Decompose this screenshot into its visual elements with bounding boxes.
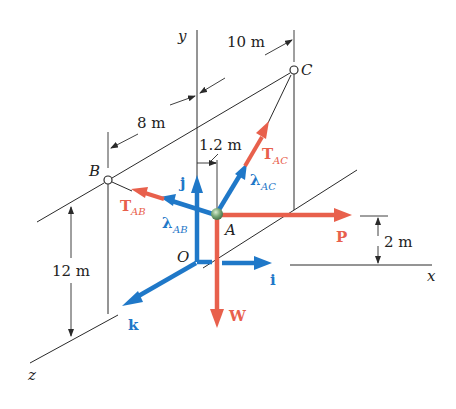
lambda-ac-label: λ AC [250,171,276,192]
lambda-ac-subscript: AC [260,181,276,192]
t-ab-subscript: AB [130,206,146,217]
p-arrow-icon [334,208,352,222]
cable-ac [268,75,291,123]
dimension-lines [71,30,388,336]
point-b-label: B [88,162,100,180]
dim-1-2m-label: 1.2 m [199,136,242,154]
t-ac-label: T AC [262,145,288,166]
z-axis-label: z [27,366,36,384]
dim-2m-label: 2 m [384,233,413,251]
j-label: j [178,174,185,192]
cable-ab [112,182,132,191]
lambda-ab-label: λ AB [162,214,188,235]
k-shaft [135,263,196,298]
t-ab-shaft [145,193,164,199]
t-ab-label: T AB [120,197,146,217]
p-label: P [336,228,347,246]
t-ac-subscript: AC [272,155,288,166]
lambda-ac-symbol: λ [250,171,261,189]
t-ac-arrow-icon [256,121,269,139]
lambda-ab-symbol: λ [162,214,173,232]
dim-8m-label: 8 m [137,114,166,132]
dim-8m-arrow-left [111,134,138,148]
origin-label: O [177,248,189,266]
t-ab-arrow-icon [131,187,148,198]
dim-12m-label: 12 m [52,262,90,280]
point-c-marker [290,66,298,74]
k-label: k [128,316,139,334]
lambda-ac-shaft [217,175,240,213]
w-arrow-icon [210,309,224,328]
j-arrow-icon [191,175,203,193]
w-label: W [228,307,247,325]
point-b-marker [104,176,112,184]
dim-10m-label: 10 m [227,33,265,51]
i-arrow-icon [254,256,272,270]
point-c-label: C [301,61,313,79]
b-extension-line [37,183,104,222]
ground-line [203,170,357,268]
particle-a-ball [211,208,223,220]
y-axis-label: y [177,27,187,45]
lambda-ab-shaft [172,201,216,215]
t-ac-shaft [245,137,262,166]
labels: y C B A O x z 10 m 8 m 1.2 m 12 m 2 m j … [27,27,436,384]
dim-10m-arrow-right [265,40,292,55]
point-a-label: A [223,221,236,239]
i-label: i [270,271,276,289]
z-axis-line [30,315,118,363]
x-axis-label: x [427,267,436,285]
dim-10m-arrow-left [200,78,225,93]
statics-diagram: y C B A O x z 10 m 8 m 1.2 m 12 m 2 m j … [0,0,456,409]
lambda-ab-subscript: AB [172,224,188,235]
dim-8m-arrow-right [170,96,195,105]
